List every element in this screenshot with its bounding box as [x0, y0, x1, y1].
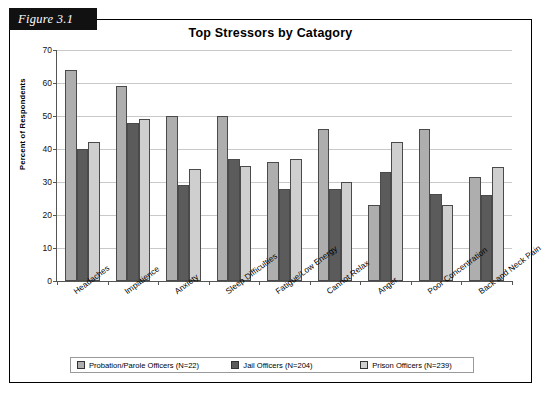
- x-tick-mark: [310, 281, 311, 285]
- bar: [139, 119, 151, 281]
- x-tick-mark: [158, 281, 159, 285]
- bar: [77, 149, 89, 281]
- bar-group: [419, 50, 454, 281]
- bar: [419, 129, 431, 281]
- legend-swatch: [231, 361, 239, 369]
- y-tick-label: 50: [43, 111, 52, 121]
- bar: [217, 116, 229, 281]
- bar-group: [116, 50, 151, 281]
- bar: [391, 142, 403, 281]
- legend-swatch: [360, 361, 368, 369]
- y-tick-label: 10: [43, 243, 52, 253]
- bar: [380, 172, 392, 281]
- bar: [329, 189, 341, 281]
- x-tick-mark: [57, 281, 58, 285]
- bar: [228, 159, 240, 281]
- legend-item: Jail Officers (N=204): [205, 361, 339, 370]
- legend-label: Probation/Parole Officers (N=22): [89, 361, 199, 370]
- legend-swatch: [77, 361, 85, 369]
- bar: [492, 167, 504, 281]
- plot-area: 010203040506070 HeadachesImpatienceAnxie…: [56, 50, 512, 282]
- y-tick-label: 20: [43, 210, 52, 220]
- bar-group: [267, 50, 302, 281]
- x-tick-mark: [512, 281, 513, 285]
- y-tick-label: 60: [43, 78, 52, 88]
- bar: [178, 185, 190, 281]
- bar: [88, 142, 100, 281]
- legend-item: Probation/Parole Officers (N=22): [71, 361, 205, 370]
- bar: [341, 182, 353, 281]
- bar: [368, 205, 380, 281]
- bar: [116, 86, 128, 281]
- figure-number-tab: Figure 3.1: [9, 8, 97, 30]
- y-tick-label: 70: [43, 45, 52, 55]
- bar-group: [469, 50, 504, 281]
- bar: [189, 169, 201, 281]
- x-tick-mark: [411, 281, 412, 285]
- x-tick-mark: [108, 281, 109, 285]
- x-tick-mark: [360, 281, 361, 285]
- legend-item: Prison Officers (N=239): [339, 361, 473, 370]
- bar: [279, 189, 291, 281]
- x-tick-mark: [259, 281, 260, 285]
- bar: [65, 70, 77, 281]
- y-tick-label: 40: [43, 144, 52, 154]
- chart-legend: Probation/Parole Officers (N=22)Jail Off…: [70, 357, 474, 373]
- y-tick-label: 0: [47, 276, 52, 286]
- y-tick-label: 30: [43, 177, 52, 187]
- bar: [290, 159, 302, 281]
- bar-group: [166, 50, 201, 281]
- bar: [240, 166, 252, 282]
- bar: [430, 194, 442, 281]
- bar: [166, 116, 178, 281]
- x-tick-mark: [461, 281, 462, 285]
- y-axis-title: Percent of Respondents: [18, 78, 27, 170]
- bar: [127, 123, 139, 281]
- legend-label: Prison Officers (N=239): [372, 361, 451, 370]
- bar: [481, 195, 493, 281]
- bar-group: [368, 50, 403, 281]
- bar-group: [65, 50, 100, 281]
- x-tick-mark: [209, 281, 210, 285]
- legend-label: Jail Officers (N=204): [243, 361, 312, 370]
- bar-group: [217, 50, 252, 281]
- figure-frame: Top Stressors by Catagory Percent of Res…: [9, 19, 532, 383]
- bars-layer: [57, 50, 512, 281]
